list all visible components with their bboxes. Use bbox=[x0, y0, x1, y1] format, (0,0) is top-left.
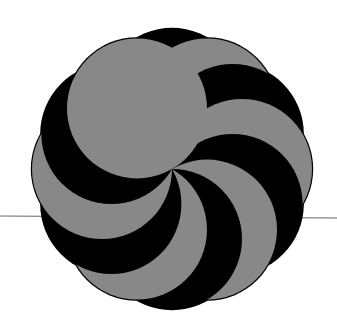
pinwheel-figure bbox=[0, 0, 337, 334]
pinwheel-svg bbox=[0, 0, 337, 334]
light-swirl-circle bbox=[67, 38, 207, 178]
swirl-circles bbox=[32, 29, 312, 309]
